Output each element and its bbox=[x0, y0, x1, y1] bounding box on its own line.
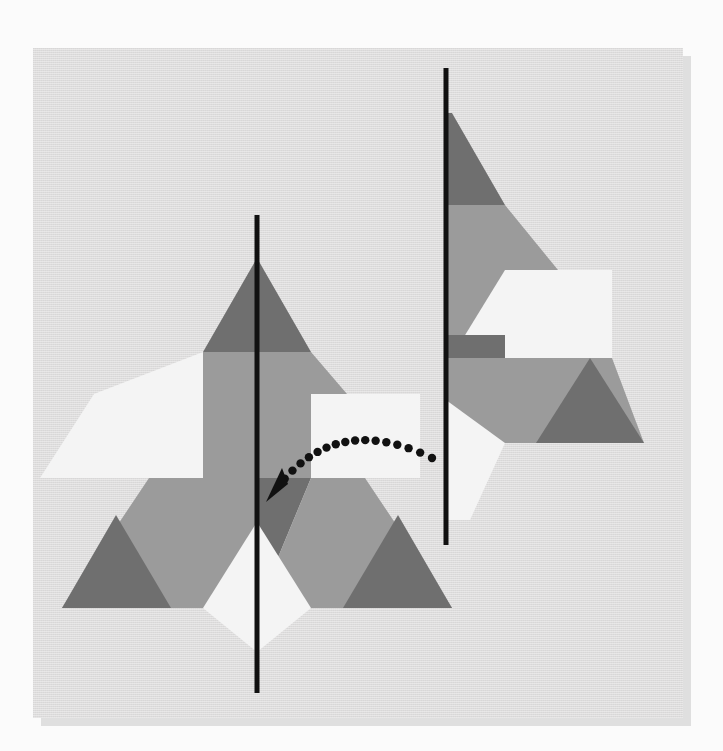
arrow-dot bbox=[416, 448, 424, 456]
arrow-dot bbox=[428, 454, 436, 462]
arrow-dot bbox=[371, 437, 379, 445]
arrow-dot bbox=[382, 438, 390, 446]
arrow-dot bbox=[341, 438, 349, 446]
arrow-dot bbox=[404, 444, 412, 452]
arrow-dot bbox=[361, 436, 369, 444]
arrow-dot bbox=[305, 453, 313, 461]
top-dark-triangle bbox=[446, 113, 505, 205]
arrow-dot bbox=[313, 448, 321, 456]
scene-stage bbox=[0, 0, 723, 751]
white-rhombus-fill bbox=[505, 270, 612, 358]
figure-layer bbox=[0, 0, 723, 751]
arrow-dot bbox=[288, 466, 296, 474]
arrow-dot bbox=[296, 459, 304, 467]
arrow-dot bbox=[332, 440, 340, 448]
left-triskelion-figure[interactable] bbox=[40, 258, 452, 652]
arrow-dot bbox=[393, 441, 401, 449]
arrow-dot bbox=[351, 436, 359, 444]
arrow-dot bbox=[322, 443, 330, 451]
right-rotated-figure[interactable] bbox=[446, 113, 644, 520]
left-white-rhombus-upper bbox=[94, 352, 203, 478]
